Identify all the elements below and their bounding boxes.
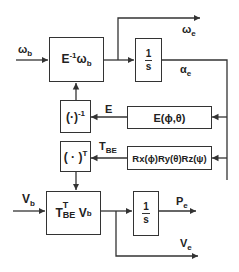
block-sub: BE xyxy=(63,211,76,220)
e-matrix-block: E(ϕ,θ) xyxy=(127,106,212,129)
block-sup: -1 xyxy=(78,109,85,118)
fraction-numerator: 1 xyxy=(145,49,153,61)
signal-sub: e xyxy=(183,201,187,210)
inverse-op-block: (·)-1 xyxy=(60,100,91,133)
v-b-label: Vb xyxy=(22,193,35,208)
signal-base: ω xyxy=(182,23,191,35)
e-signal-label: E xyxy=(105,104,112,115)
block-sup: T xyxy=(82,149,87,158)
block-label: E(ϕ,θ) xyxy=(154,112,186,124)
fraction-denominator: s xyxy=(146,61,152,72)
signal-base: ω xyxy=(18,43,27,55)
signal-sub: e xyxy=(187,243,191,252)
signal-base: T xyxy=(99,140,106,152)
fraction-denominator: s xyxy=(143,214,149,225)
rotation-block: Rx(ϕ)Ry(θ)Rz(ψ) xyxy=(127,146,212,170)
block-label: T xyxy=(55,206,62,220)
block-sup: -1 xyxy=(69,51,76,60)
v-e-label: Ve xyxy=(180,238,192,252)
transpose-op-block: ( · )T xyxy=(60,141,91,172)
connection-lines xyxy=(0,0,239,272)
integrator-bottom-block: 1 s xyxy=(133,191,159,236)
block-label: ( · ) xyxy=(64,150,83,164)
block-sub: b xyxy=(87,209,92,218)
signal-base: E xyxy=(105,103,112,115)
block-label: (·) xyxy=(66,110,78,124)
signal-sub: b xyxy=(27,49,32,58)
omega-b-label: ωb xyxy=(18,44,32,58)
signal-sub: e xyxy=(191,29,195,38)
signal-sub: b xyxy=(30,199,35,208)
inverse-e-block: E-1ωb xyxy=(49,37,104,82)
block-label-after: V xyxy=(75,206,86,220)
alpha-e-label: αe xyxy=(180,64,191,78)
signal-sub: BE xyxy=(106,146,117,155)
signal-sub: e xyxy=(187,69,191,78)
block-sup: T xyxy=(63,201,76,210)
omega-e-label: ωe xyxy=(182,24,196,38)
block-label-after: ω xyxy=(77,52,87,66)
t-be-label: TBE xyxy=(99,141,117,155)
block-sub: b xyxy=(87,59,92,68)
block-label: Rx(ϕ)Ry(θ)Rz(ψ) xyxy=(132,153,206,164)
fraction-numerator: 1 xyxy=(142,202,150,214)
signal-base: α xyxy=(180,63,187,75)
p-e-label: Pe xyxy=(176,196,188,210)
integrator-top-block: 1 s xyxy=(135,38,162,82)
transform-block: T T BE Vb xyxy=(46,191,101,235)
signal-base: V xyxy=(22,192,30,206)
